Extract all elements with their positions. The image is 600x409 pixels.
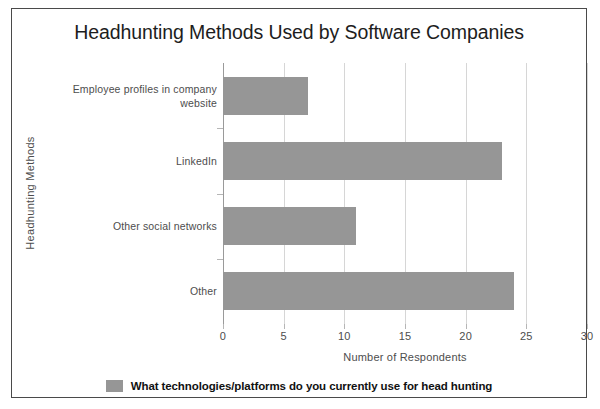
gridline: [587, 63, 588, 324]
chart-title: Headhunting Methods Used by Software Com…: [12, 21, 586, 44]
bar[interactable]: [223, 272, 514, 310]
x-axis-tick: [526, 324, 527, 329]
y-axis-category-label: LinkedIn: [52, 154, 217, 168]
x-axis-tick-label: 30: [581, 330, 594, 342]
x-axis-tick-label: 5: [280, 330, 286, 342]
y-axis-category-label: Employee profiles in companywebsite: [52, 82, 217, 110]
x-axis-tick: [405, 324, 406, 329]
chart-legend: What technologies/platforms do you curre…: [12, 380, 586, 392]
x-axis-tick: [587, 324, 588, 329]
x-axis-tick-label: 15: [399, 330, 412, 342]
legend-label: What technologies/platforms do you curre…: [131, 380, 493, 392]
chart-frame: Headhunting Methods Used by Software Com…: [11, 8, 587, 398]
bar-slot: [223, 272, 587, 310]
x-axis-tick: [223, 324, 224, 329]
y-axis-category-label-line: Other: [52, 284, 217, 298]
y-axis-category-label: Other: [52, 284, 217, 298]
y-axis-category-label-line: Employee profiles in company: [52, 82, 217, 96]
bar-slot: [223, 77, 587, 115]
y-axis-category-label-line: website: [52, 96, 217, 110]
x-axis-tick: [284, 324, 285, 329]
x-axis-title: Number of Respondents: [223, 351, 587, 363]
x-axis-tick: [344, 324, 345, 329]
y-axis-category-label-line: Other social networks: [52, 219, 217, 233]
bar-slot: [223, 142, 587, 180]
bar-series: [223, 63, 587, 324]
bar[interactable]: [223, 142, 502, 180]
y-axis-category-labels: Employee profiles in companywebsiteLinke…: [52, 63, 217, 324]
x-axis-tick-label: 25: [520, 330, 533, 342]
y-axis-category-label-line: LinkedIn: [52, 154, 217, 168]
x-axis-tick-labels: 051015202530: [223, 330, 587, 346]
plot-area: [223, 63, 587, 324]
y-axis-category-label: Other social networks: [52, 219, 217, 233]
x-axis-tick-label: 0: [220, 330, 226, 342]
x-axis-tick-label: 20: [459, 330, 472, 342]
x-axis-tick: [466, 324, 467, 329]
legend-swatch-icon: [106, 380, 123, 392]
bar[interactable]: [223, 77, 308, 115]
y-axis-title: Headhunting Methods: [24, 113, 36, 273]
bar[interactable]: [223, 207, 356, 245]
bar-slot: [223, 207, 587, 245]
x-axis-tick-label: 10: [338, 330, 351, 342]
